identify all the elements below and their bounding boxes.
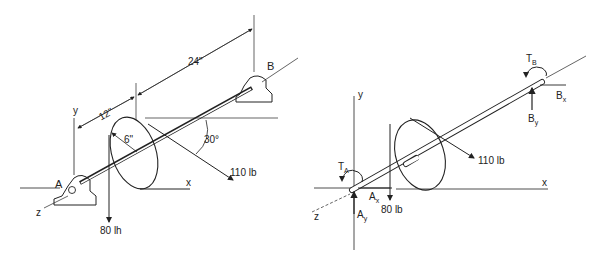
bearing-b bbox=[236, 76, 272, 102]
angle-label: 30° bbox=[204, 134, 219, 145]
point-a-label: A bbox=[55, 178, 63, 190]
right-shaft-axis-ext bbox=[546, 56, 586, 78]
ay-label: Ay bbox=[357, 209, 368, 223]
right-z-label: z bbox=[314, 211, 319, 222]
ta-label: TA bbox=[338, 161, 349, 174]
right-z-axis bbox=[312, 194, 350, 212]
left-figure: x y z A B 6" 12" 24" bbox=[20, 15, 298, 236]
right-weight-label: 80 lb bbox=[381, 204, 403, 215]
left-y-label: y bbox=[73, 105, 78, 116]
bx-label: Bx bbox=[556, 90, 567, 103]
ax-label: Ax bbox=[369, 191, 380, 204]
by-label: By bbox=[528, 113, 539, 127]
point-b-label: B bbox=[267, 60, 274, 72]
dim-label-12: 12" bbox=[97, 105, 116, 122]
belt-force-arrow bbox=[148, 124, 233, 180]
belt-force-label: 110 lb bbox=[230, 167, 257, 178]
radius-label: 6" bbox=[124, 134, 134, 145]
right-belt-force-label: 110 lb bbox=[478, 155, 505, 166]
right-y-label: y bbox=[358, 89, 363, 100]
right-figure: x y z 110 lb 80 lb Ax Ay TA Bx bbox=[312, 53, 586, 250]
tb-torque-arc bbox=[526, 67, 547, 76]
left-z-label: z bbox=[36, 207, 41, 218]
left-x-label: x bbox=[186, 177, 191, 188]
dim-label-24: 24" bbox=[188, 56, 203, 67]
right-x-label: x bbox=[542, 177, 547, 188]
weight-label: 80 lh bbox=[100, 225, 122, 236]
right-disk bbox=[386, 113, 454, 196]
tb-label: TB bbox=[526, 53, 537, 66]
diagram-canvas: x y z A B 6" 12" 24" bbox=[0, 0, 603, 262]
